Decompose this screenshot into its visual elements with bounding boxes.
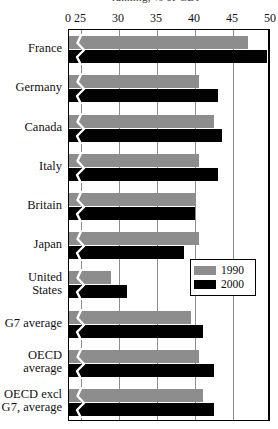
plot-area (68, 29, 270, 421)
bar-2000 (69, 325, 203, 338)
chart-title-cropped: ranking, % of GDP (112, 0, 202, 3)
bar-row (69, 115, 269, 142)
y-category-label: Germany (15, 81, 62, 94)
legend-item: 2000 (194, 278, 251, 291)
bar-1990 (69, 311, 191, 324)
y-category-label: Britain (27, 199, 62, 212)
x-tick-label: 40 (188, 11, 200, 26)
bar-1990 (69, 115, 214, 128)
legend-label: 1990 (221, 265, 244, 276)
x-tick-label: 45 (226, 11, 238, 26)
cropped-title-strip: ranking, % of GDP (0, 0, 278, 8)
bar-1990 (69, 389, 203, 402)
bar-2000 (69, 207, 195, 220)
bar-2000 (69, 246, 184, 259)
bar-row (69, 232, 269, 259)
legend-swatch-1990 (194, 266, 216, 275)
bar-1990 (69, 271, 111, 284)
bar-row (69, 350, 269, 377)
legend-swatch-2000 (194, 280, 216, 289)
bar-row (69, 389, 269, 416)
bar-1990 (69, 154, 199, 167)
bar-chart: ranking, % of GDP 0253035404550 FranceGe… (0, 0, 278, 429)
bar-row (69, 193, 269, 220)
x-tick-label: 25 (74, 11, 86, 26)
y-category-label: G7 average (5, 317, 62, 330)
bar-2000 (69, 285, 127, 298)
bar-1990 (69, 36, 248, 49)
chart-legend: 1990 2000 (190, 259, 256, 296)
bar-2000 (69, 364, 214, 377)
bar-1990 (69, 232, 199, 245)
y-category-label: United States (28, 271, 62, 297)
x-tick-label: 0 (65, 11, 71, 26)
y-category-label: Canada (25, 121, 62, 134)
legend-label: 2000 (221, 279, 244, 290)
bar-2000 (69, 168, 218, 181)
bar-row (69, 36, 269, 63)
bar-1990 (69, 193, 195, 206)
y-category-label: Italy (39, 160, 62, 173)
x-tick-label: 30 (112, 11, 124, 26)
y-axis-category-labels: FranceGermanyCanadaItalyBritainJapanUnit… (0, 29, 66, 421)
bar-1990 (69, 75, 199, 88)
bar-2000 (69, 50, 267, 63)
y-category-label: France (28, 42, 62, 55)
bar-row (69, 154, 269, 181)
x-tick-label: 35 (150, 11, 162, 26)
bar-rows (69, 30, 269, 420)
y-category-label: Japan (34, 238, 62, 251)
bar-2000 (69, 89, 218, 102)
bar-row (69, 311, 269, 338)
x-axis-tick-labels: 0253035404550 (0, 11, 278, 27)
legend-item: 1990 (194, 264, 251, 277)
bar-1990 (69, 350, 199, 363)
x-tick-label: 50 (264, 11, 276, 26)
bar-2000 (69, 129, 222, 142)
y-category-label: OECD average (23, 349, 62, 375)
bar-row (69, 75, 269, 102)
y-category-label: OECD excl G7, average (2, 388, 62, 414)
bar-2000 (69, 403, 214, 416)
